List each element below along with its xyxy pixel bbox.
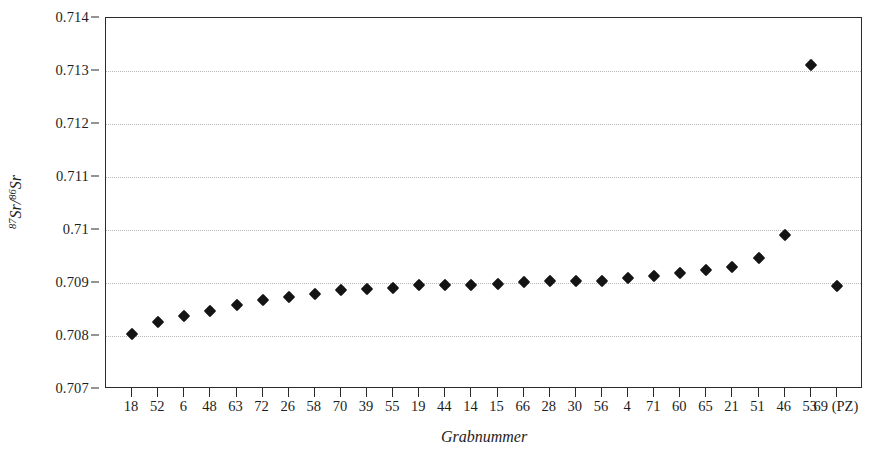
x-axis-tick-mark bbox=[262, 388, 263, 397]
x-axis-tick-label: 58 bbox=[307, 398, 322, 415]
x-axis-tick-label: 39 bbox=[359, 398, 374, 415]
x-axis-title: Grabnummer bbox=[441, 428, 527, 446]
x-axis-tick-label: 71 bbox=[646, 398, 661, 415]
x-axis-tick-mark bbox=[523, 388, 524, 397]
x-axis-tick-mark bbox=[731, 388, 732, 397]
x-axis-tick-mark bbox=[758, 388, 759, 397]
x-axis-tick-label: 52 bbox=[150, 398, 165, 415]
x-axis-tick-mark bbox=[601, 388, 602, 397]
x-axis-tick-mark bbox=[236, 388, 237, 397]
x-axis-tick-label: 14 bbox=[463, 398, 478, 415]
x-axis-tick-mark bbox=[183, 388, 184, 397]
x-axis-tick-label: 21 bbox=[724, 398, 739, 415]
x-axis-tick-label: 48 bbox=[202, 398, 217, 415]
x-axis-tick-label: 28 bbox=[542, 398, 557, 415]
x-axis-tick-mark bbox=[575, 388, 576, 397]
x-axis-tick-label: 4 bbox=[623, 398, 630, 415]
x-axis-tick-label: 46 bbox=[776, 398, 791, 415]
x-axis-tick-mark bbox=[549, 388, 550, 397]
x-axis-tick-mark bbox=[705, 388, 706, 397]
x-axis-tick-label: 70 bbox=[333, 398, 348, 415]
x-axis-tick-mark bbox=[497, 388, 498, 397]
x-axis-tick-label: 26 bbox=[280, 398, 295, 415]
x-axis-tick-mark bbox=[314, 388, 315, 397]
x-axis-tick-mark bbox=[340, 388, 341, 397]
x-axis-tick-mark bbox=[288, 388, 289, 397]
x-axis-tick-label: 60 bbox=[672, 398, 687, 415]
x-axis-tick-label: 56 bbox=[594, 398, 609, 415]
x-axis-tick-mark bbox=[784, 388, 785, 397]
x-axis-tick-mark bbox=[679, 388, 680, 397]
x-axis-tick-label: 55 bbox=[385, 398, 400, 415]
x-axis-tick-mark bbox=[209, 388, 210, 397]
x-axis-tick-mark bbox=[131, 388, 132, 397]
x-axis-tick-label: 72 bbox=[254, 398, 269, 415]
x-axis-tick-label: 30 bbox=[568, 398, 583, 415]
x-axis-tick-label: 44 bbox=[437, 398, 452, 415]
x-axis-tick-label: 63 bbox=[228, 398, 243, 415]
x-axis-tick-mark bbox=[470, 388, 471, 397]
x-axis: 1852648637226587039551944141566283056471… bbox=[0, 0, 883, 463]
x-axis-tick-mark bbox=[810, 388, 811, 397]
x-axis-tick-label: 6 bbox=[180, 398, 187, 415]
x-axis-tick-label: 51 bbox=[750, 398, 765, 415]
x-axis-tick-mark bbox=[444, 388, 445, 397]
x-axis-tick-mark bbox=[836, 388, 837, 397]
x-axis-tick-mark bbox=[366, 388, 367, 397]
x-axis-tick-label: 18 bbox=[124, 398, 139, 415]
x-axis-tick-mark bbox=[418, 388, 419, 397]
x-axis-tick-label: 19 bbox=[411, 398, 426, 415]
x-axis-tick-mark bbox=[157, 388, 158, 397]
x-axis-tick-label: 15 bbox=[489, 398, 504, 415]
x-axis-tick-label: 66 bbox=[515, 398, 530, 415]
x-axis-tick-mark bbox=[627, 388, 628, 397]
x-axis-tick-mark bbox=[653, 388, 654, 397]
x-axis-tick-mark bbox=[392, 388, 393, 397]
strontium-isotope-scatter-chart: 87Sr/86Sr 0.7070.7080.7090.710.7110.7120… bbox=[0, 0, 883, 463]
x-axis-tick-label: 65 bbox=[698, 398, 713, 415]
x-axis-tick-label: 69 (PZ) bbox=[814, 398, 859, 415]
